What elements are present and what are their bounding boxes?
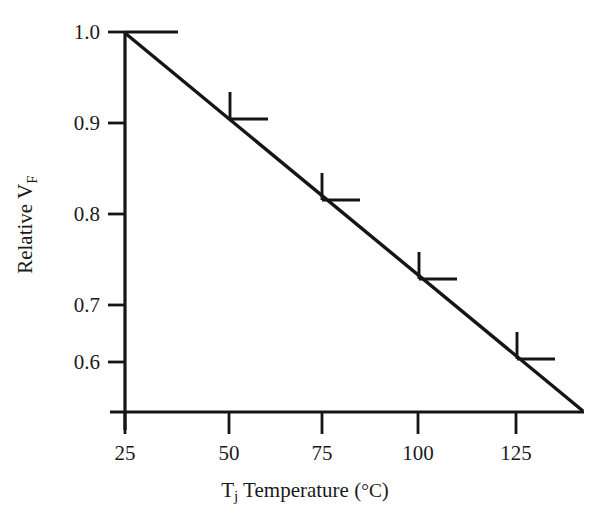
x-axis-title-unit: °C bbox=[361, 480, 382, 501]
y-axis-title: Relative VF bbox=[13, 135, 40, 315]
chart-figure: 1.0 0.9 0.8 0.7 0.6 25 50 75 100 125 Tj … bbox=[0, 0, 610, 529]
x-tick-label-3: 100 bbox=[402, 443, 434, 464]
x-axis-title-suffix: Temperature ( bbox=[238, 478, 361, 502]
y-tick-label-3: 0.7 bbox=[48, 295, 100, 316]
x-axis-title-close: ) bbox=[382, 478, 389, 502]
y-axis-title-prefix: Relative V bbox=[13, 184, 37, 274]
x-axis-title-prefix: T bbox=[221, 478, 234, 502]
x-tick-label-2: 75 bbox=[312, 443, 333, 464]
y-tick-label-4: 0.6 bbox=[48, 352, 100, 373]
y-tick-label-2: 0.8 bbox=[48, 204, 100, 225]
x-axis-title: Tj Temperature (°C) bbox=[0, 478, 610, 505]
y-tick-label-0: 1.0 bbox=[48, 22, 100, 43]
y-tick-label-1: 0.9 bbox=[48, 113, 100, 134]
x-tick-label-0: 25 bbox=[115, 443, 136, 464]
data-series-line bbox=[125, 33, 583, 411]
x-tick-label-1: 50 bbox=[219, 443, 240, 464]
data-marker-75 bbox=[322, 173, 360, 200]
data-marker-100 bbox=[419, 252, 457, 279]
y-axis-title-subscript: F bbox=[24, 175, 40, 183]
data-marker-50 bbox=[230, 92, 268, 119]
data-marker-125 bbox=[517, 332, 555, 359]
x-tick-label-4: 125 bbox=[500, 443, 532, 464]
